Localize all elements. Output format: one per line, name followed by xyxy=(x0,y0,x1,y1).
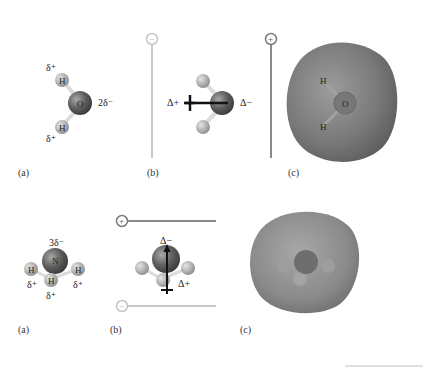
panel-label-a: (a) xyxy=(18,168,29,178)
charge-label: δ⁺ xyxy=(46,63,56,73)
charge-label: δ⁺ xyxy=(27,280,37,290)
atom-label: H xyxy=(48,276,55,286)
atom-label: N xyxy=(52,256,59,266)
atom-label: H xyxy=(320,76,327,86)
atom-label: H xyxy=(320,122,327,132)
atom-label: O xyxy=(342,99,349,109)
ammonia-model-b xyxy=(117,216,217,312)
panel-label-c: (c) xyxy=(288,168,299,178)
water-model-b xyxy=(147,34,277,159)
dipole-negative-label: Δ− xyxy=(160,236,172,246)
dipole-positive-label: Δ+ xyxy=(167,98,179,108)
panel-label-a: (a) xyxy=(18,325,29,335)
ammonia-density-surface xyxy=(250,212,359,313)
atom-label: H xyxy=(59,76,66,86)
atom-label: H xyxy=(28,265,35,275)
positive-sign-icon: + xyxy=(268,34,273,44)
panel-label-b: (b) xyxy=(110,325,122,335)
dipole-positive-label: Δ+ xyxy=(178,279,190,289)
negative-sign-icon: − xyxy=(119,301,124,311)
atom-label: H xyxy=(75,265,82,275)
atom-label: O xyxy=(77,99,84,109)
negative-sign-icon: − xyxy=(149,34,154,44)
charge-label: 3δ⁻ xyxy=(49,238,64,248)
positive-sign-icon: + xyxy=(119,216,124,226)
charge-label: δ⁺ xyxy=(46,134,56,144)
dipole-negative-label: Δ− xyxy=(240,98,252,108)
panel-label-c: (c) xyxy=(240,325,251,335)
panel-label-b: (b) xyxy=(147,168,159,178)
charge-label: 2δ⁻ xyxy=(98,98,113,108)
figure-graphics xyxy=(0,0,423,369)
charge-label: δ⁺ xyxy=(73,280,83,290)
charge-label: δ⁺ xyxy=(46,291,56,301)
atom-label: H xyxy=(59,123,66,133)
